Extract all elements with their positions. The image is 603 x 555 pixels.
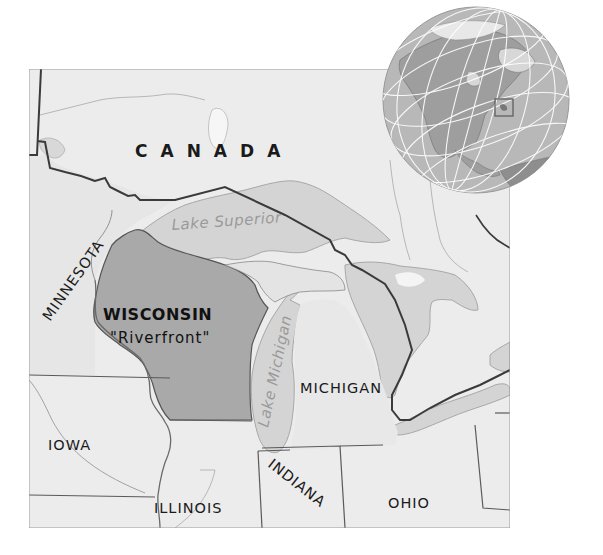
label-wisconsin[interactable]: WISCONSIN: [103, 305, 212, 324]
label-canada: CANADA: [135, 141, 293, 161]
label-illinois: ILLINOIS: [154, 500, 222, 516]
label-iowa: IOWA: [48, 437, 91, 453]
label-riverfront: "Riverfront": [110, 329, 210, 347]
label-michigan: MICHIGAN: [300, 380, 382, 396]
label-ohio: OHIO: [388, 495, 430, 511]
wisconsin-locator-map: CANADA Lake Superior Lake Michigan MINNE…: [0, 0, 603, 555]
